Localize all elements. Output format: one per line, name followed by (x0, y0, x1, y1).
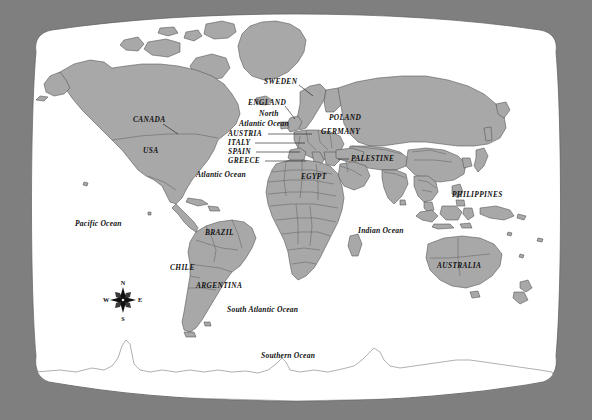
timor (460, 223, 472, 228)
label-germany: GERMANY (321, 127, 361, 136)
label-north-atlantic-ocean-line1: North (258, 109, 279, 118)
label-spain: SPAIN (228, 147, 251, 156)
label-italy: ITALY (227, 138, 252, 147)
falkland-islands (204, 322, 211, 326)
compass-hub-inner (122, 299, 125, 302)
world-map-svg: CANADA USA SWEDEN ENGLAND POLAND GERMANY… (0, 0, 592, 420)
pacific-island-c (519, 254, 524, 258)
philippines-island-south (456, 200, 465, 206)
label-poland: POLAND (329, 113, 361, 122)
label-south-atlantic-ocean: South Atlantic Ocean (227, 305, 298, 314)
compass-label-north: N (121, 279, 126, 286)
label-sweden: SWEDEN (264, 77, 298, 86)
label-england: ENGLAND (247, 98, 286, 107)
pacific-island-a (148, 212, 151, 215)
label-usa: USA (143, 146, 158, 155)
label-north-atlantic-ocean-line2: Atlantic Ocean (238, 119, 289, 128)
label-brazil: BRAZIL (204, 228, 234, 237)
hawaii-islands (83, 182, 88, 186)
compass-label-west: W (103, 296, 110, 303)
korea-peninsula (462, 158, 472, 168)
label-indian-ocean: Indian Ocean (357, 226, 404, 235)
label-atlantic-ocean: Atlantic Ocean (195, 170, 246, 179)
label-austria: AUSTRIA (227, 129, 262, 138)
label-pacific-ocean: Pacific Ocean (75, 219, 122, 228)
fiji-islands (537, 238, 543, 242)
java (432, 224, 454, 229)
label-australia: AUSTRALIA (436, 261, 481, 270)
label-philippines: PHILIPPINES (452, 190, 503, 199)
label-chile: CHILE (170, 263, 195, 272)
tasmania (470, 291, 480, 298)
sri-lanka (400, 200, 406, 205)
label-egypt: EGYPT (300, 172, 327, 181)
label-palestine: PALESTINE (351, 154, 394, 163)
label-southern-ocean: Southern Ocean (261, 351, 315, 360)
label-argentina: ARGENTINA (195, 281, 242, 290)
label-canada: CANADA (133, 115, 166, 124)
pacific-island-b (507, 232, 512, 236)
tierra-del-fuego (184, 332, 196, 337)
compass-label-east: E (138, 296, 142, 303)
label-greece: GREECE (228, 156, 260, 165)
world-map-screenshot: CANADA USA SWEDEN ENGLAND POLAND GERMANY… (0, 0, 592, 420)
compass-label-south: S (121, 315, 125, 322)
